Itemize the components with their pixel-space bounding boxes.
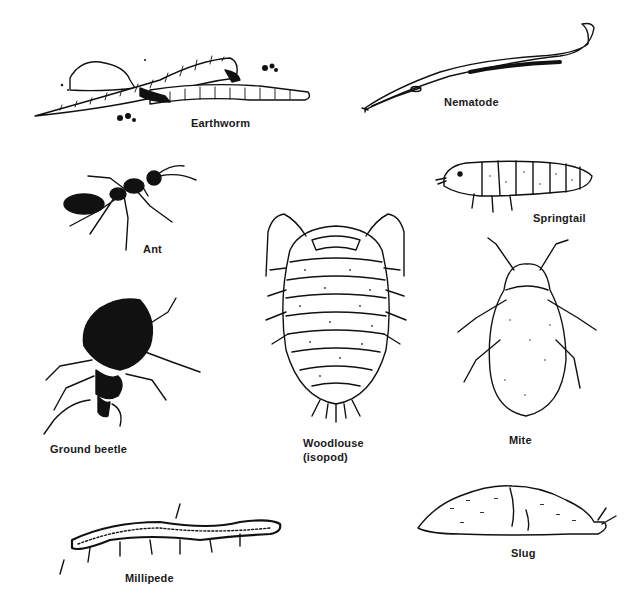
slug-illustration [418,486,616,535]
millipede-illustration [60,504,280,574]
label-springtail: Springtail [533,212,586,225]
label-ant: Ant [143,243,162,256]
label-millipede: Millipede [125,572,174,585]
earthworm-illustration [35,56,309,122]
woodlouse-illustration [266,214,406,422]
label-ground-beetle: Ground beetle [50,443,127,456]
label-slug: Slug [511,547,536,560]
label-earthworm: Earthworm [191,117,250,130]
label-woodlouse: Woodlouse [303,437,364,450]
ground-beetle-illustration [44,298,200,434]
springtail-illustration [436,161,592,212]
label-woodlouse-sub: (isopod) [303,451,348,464]
mite-illustration [458,238,596,416]
ant-illustration [64,166,196,250]
label-nematode: Nematode [444,96,499,109]
soil-organisms-figure: Earthworm Nematode Ant Springtail Woodlo… [0,0,639,604]
label-mite: Mite [509,434,532,447]
